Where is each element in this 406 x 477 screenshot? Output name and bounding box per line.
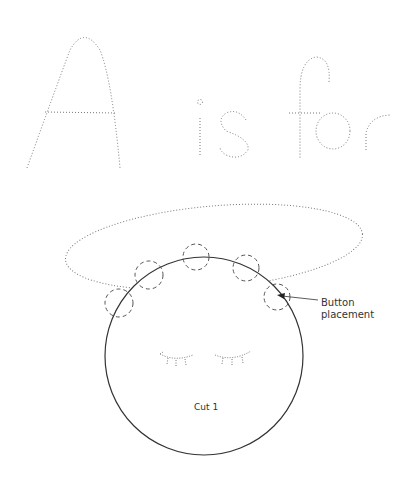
callout-line2: placement	[321, 309, 374, 321]
letter-A-crossbar	[45, 112, 116, 113]
letter-o	[316, 113, 350, 149]
letter-A	[27, 38, 120, 169]
letter-i-dot	[198, 100, 203, 105]
tracing-letters	[27, 38, 390, 169]
cut-label: Cut 1	[194, 402, 218, 412]
callout-line1: Button	[321, 297, 374, 309]
face-circle	[105, 257, 303, 455]
callout-line	[282, 296, 318, 300]
letter-s	[220, 112, 248, 158]
letter-r	[366, 115, 390, 150]
button-placement-label: Button placement	[321, 297, 374, 321]
letter-f	[300, 57, 329, 158]
